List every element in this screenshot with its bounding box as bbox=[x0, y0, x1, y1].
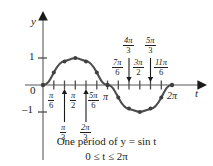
x-label-5pi-over-6-num: 5π bbox=[88, 91, 99, 100]
x-label-5pi-over-6-den: 6 bbox=[88, 100, 99, 110]
x-label-pi-over-6-num: π bbox=[48, 91, 54, 100]
x-label-11pi-over-6-num: 11π bbox=[154, 58, 168, 67]
x-label-7pi-over-6: 7π 6 bbox=[112, 58, 123, 76]
x-label-3pi-over-2-den: 2 bbox=[133, 67, 144, 77]
x-label-4pi-over-3: 4π 3 bbox=[123, 36, 134, 54]
x-label-pi-over-2: π 2 bbox=[70, 91, 76, 109]
x-label-pi-over-6-den: 6 bbox=[48, 100, 54, 110]
x-label-7pi-over-6-den: 6 bbox=[112, 67, 123, 77]
x-label-5pi-over-3-num: 5π bbox=[145, 36, 156, 45]
x-label-11pi-over-6: 11π 6 bbox=[154, 58, 168, 76]
x-label-4pi-over-3-den: 3 bbox=[123, 45, 134, 55]
x-label-pi-over-3-num: π bbox=[60, 123, 66, 132]
caption-line-1: One period of y = sin t bbox=[0, 135, 213, 147]
caption-line-2: 0 ≤ t ≤ 2π bbox=[0, 150, 213, 162]
sine-period-figure: y t 1 0 –1 π 6 π 2 5π 6 π 2π π 3 2π bbox=[0, 0, 213, 166]
x-label-7pi-over-6-num: 7π bbox=[112, 58, 123, 67]
x-label-5pi-over-3: 5π 3 bbox=[145, 36, 156, 54]
y-tick-label-0: 0 bbox=[30, 85, 36, 96]
x-label-2pi: 2π bbox=[167, 91, 177, 101]
t-axis-label: t bbox=[195, 88, 198, 99]
y-axis-label: y bbox=[31, 16, 36, 27]
x-label-3pi-over-2-num: 3π bbox=[133, 58, 144, 67]
y-tick-label-neg1: –1 bbox=[22, 104, 33, 115]
x-label-pi-over-2-num: π bbox=[70, 91, 76, 100]
x-label-4pi-over-3-num: 4π bbox=[123, 36, 134, 45]
x-label-2pi-over-3-num: 2π bbox=[80, 123, 91, 132]
y-tick-label-1: 1 bbox=[29, 51, 35, 62]
x-label-5pi-over-3-den: 3 bbox=[145, 45, 156, 55]
x-label-3pi-over-2: 3π 2 bbox=[133, 58, 144, 76]
x-label-pi-over-6: π 6 bbox=[48, 91, 54, 109]
x-label-5pi-over-6: 5π 6 bbox=[88, 91, 99, 109]
x-label-pi: π bbox=[103, 92, 108, 102]
x-label-pi-over-2-den: 2 bbox=[70, 100, 76, 110]
x-label-11pi-over-6-den: 6 bbox=[154, 67, 168, 77]
